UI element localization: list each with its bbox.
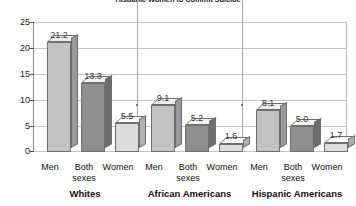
bar-african-both: [185, 125, 209, 152]
bar-front-face: [290, 126, 314, 152]
y-tick-mark-25: [29, 22, 34, 23]
bar-african-women: [219, 144, 243, 152]
value-label: 8.1: [250, 99, 286, 108]
category-label-women: Women: [201, 162, 243, 172]
bar-front-face: [219, 144, 243, 152]
suicide-rate-bar-chart: Hispanic Women to Commit Suicide 21.2 13…: [0, 0, 356, 206]
gridline-25: [33, 22, 347, 23]
y-tick-mark-0: [29, 151, 34, 152]
value-label: 21.2: [41, 31, 77, 40]
bar-hispanic-both: [290, 126, 314, 152]
bar-front-face: [185, 125, 209, 152]
value-label: 1.6: [213, 132, 249, 141]
bar-whites-both: [81, 83, 105, 152]
value-label: 13.3: [75, 72, 111, 81]
group-label-whites: Whites: [33, 188, 137, 199]
y-tick-label-20: 20: [8, 44, 30, 53]
group-separator-1-dot: [136, 104, 138, 106]
bar-hispanic-women: [324, 143, 348, 152]
bar-hispanic-men: [256, 110, 280, 152]
category-label-women: Women: [306, 162, 348, 172]
bar-whites-men: [47, 42, 71, 152]
category-label-both-2: sexes: [63, 173, 105, 183]
bar-whites-women: [115, 123, 139, 152]
value-label: 5.5: [109, 112, 145, 121]
gridline-20: [33, 48, 347, 49]
group-separator-2-dot: [241, 104, 243, 106]
plot-area: 21.2 13.3 5.5 9.1 5.2: [33, 22, 347, 152]
value-label: 5.0: [284, 115, 320, 124]
bar-front-face: [151, 105, 175, 152]
value-label: 1.7: [318, 131, 354, 140]
bar-african-men: [151, 105, 175, 152]
y-tick-label-25: 25: [8, 18, 30, 27]
group-separator-2: [242, 0, 243, 152]
y-tick-mark-15: [29, 74, 34, 75]
group-label-hispanic-americans: Hispanic Americans: [242, 188, 352, 199]
category-label-both-2: sexes: [272, 173, 314, 183]
category-label-both-2: sexes: [167, 173, 209, 183]
y-tick-label-5: 5: [8, 122, 30, 131]
y-tick-mark-20: [29, 48, 34, 49]
bar-side-face: [71, 34, 78, 148]
bar-front-face: [115, 123, 139, 152]
value-label: 5.2: [179, 114, 215, 123]
bar-front-face: [256, 110, 280, 152]
bar-side-face: [280, 102, 287, 148]
chart-title: Hispanic Women to Commit Suicide: [78, 0, 278, 2]
bar-front-face: [81, 83, 105, 152]
y-tick-mark-5: [29, 126, 34, 127]
y-tick-label-0: 0: [8, 147, 30, 156]
value-label: 9.1: [145, 94, 181, 103]
bar-front-face: [324, 143, 348, 152]
y-tick-label-10: 10: [8, 96, 30, 105]
y-axis-line: [33, 22, 34, 152]
bar-front-face: [47, 42, 71, 152]
y-tick-label-15: 15: [8, 70, 30, 79]
y-tick-mark-10: [29, 100, 34, 101]
group-label-african-americans: African Americans: [137, 188, 242, 199]
